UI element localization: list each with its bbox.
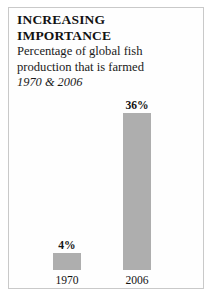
figure-subtitle-line-1: Percentage of global fish [17, 44, 187, 59]
page-title-line-2: IMPORTANCE [17, 28, 187, 44]
figure-date-range: 1970 & 2006 [17, 75, 187, 89]
figure-root: INCREASING IMPORTANCE Percentage of glob… [0, 0, 213, 305]
bar-rect-1970 [53, 253, 81, 270]
bar-value-1970: 4% [58, 239, 75, 253]
chart-plot-area: 4% 1970 36% 2006 [9, 96, 203, 288]
figure-subtitle-line-2: production that is farmed [17, 60, 187, 75]
bar-value-2006: 36% [125, 99, 148, 113]
page-title-line-1: INCREASING [17, 12, 187, 28]
bar-column-2006: 36% [123, 113, 151, 270]
bar-category-label-1970: 1970 [55, 274, 78, 288]
bar-rect-2006 [123, 113, 151, 270]
bar-column-1970: 4% [53, 253, 81, 270]
bar-chart: 4% 1970 36% 2006 [9, 96, 203, 288]
bar-group-1970: 4% 1970 [37, 96, 97, 288]
figure-text-block: INCREASING IMPORTANCE Percentage of glob… [17, 12, 187, 89]
bar-category-label-2006: 2006 [125, 274, 148, 288]
bar-group-2006: 36% 2006 [107, 96, 167, 288]
